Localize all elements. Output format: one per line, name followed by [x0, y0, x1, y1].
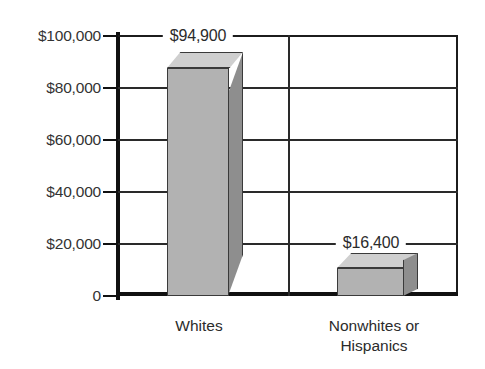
y-tick-20000	[103, 243, 117, 245]
bar-whites-side-face	[228, 52, 243, 296]
y-tick-80000	[103, 87, 117, 89]
y-axis-label-60000: $60,000	[46, 131, 101, 149]
bar-whites[interactable]	[167, 52, 243, 296]
bar-nonwhites-front-face	[337, 268, 404, 296]
bar-whites-top-face	[167, 52, 243, 68]
y-axis-label-80000: $80,000	[46, 79, 101, 97]
y-tick-60000	[103, 139, 117, 141]
value-label-whites: $94,900	[163, 27, 233, 45]
bar-chart: $100,000 $80,000 $60,000 $40,000 $20,000…	[0, 0, 485, 369]
category-label-whites: Whites	[175, 316, 222, 336]
y-axis-label-100000: $100,000	[38, 27, 101, 45]
bar-whites-front-face	[167, 68, 229, 296]
y-tick-0	[103, 295, 117, 297]
category-label-line1: Nonwhites or	[329, 317, 419, 334]
y-tick-100000	[103, 35, 117, 37]
y-axis-label-0: 0	[93, 287, 101, 305]
value-label-nonwhites-hispanics: $16,400	[336, 234, 406, 252]
plot-border-right	[456, 35, 458, 296]
y-axis-label-40000: $40,000	[46, 183, 101, 201]
bar-nonwhites-hispanics[interactable]	[337, 253, 418, 296]
category-label-nonwhites-hispanics: Nonwhites orHispanics	[329, 316, 419, 356]
plot-area	[118, 35, 458, 296]
y-axis-label-20000: $20,000	[46, 235, 101, 253]
bar-nonwhites-side-face	[403, 253, 418, 296]
y-tick-40000	[103, 191, 117, 193]
category-label-line2: Hispanics	[340, 337, 407, 354]
category-divider	[288, 35, 290, 296]
